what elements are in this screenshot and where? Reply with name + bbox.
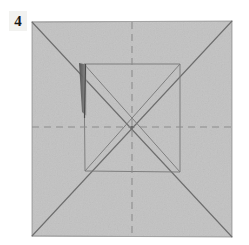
step-number-badge: 4	[9, 11, 27, 31]
figure-canvas	[0, 0, 249, 245]
center-point-marker	[130, 125, 133, 128]
step-number-label: 4	[14, 14, 22, 29]
origami-step-figure: 4	[0, 0, 249, 245]
